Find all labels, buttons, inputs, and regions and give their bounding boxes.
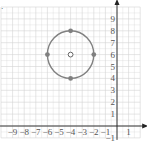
x-axis-arrow-icon [142,124,147,129]
filled-point [68,76,73,81]
grid [1,7,140,138]
filled-point [91,52,96,57]
filled-point [68,28,73,33]
x-tick-label: −4 [66,127,76,137]
y-tick-label: 8 [111,26,116,36]
axes: xy [0,0,147,140]
filled-point [45,52,50,57]
x-tick-label: −3 [77,127,87,137]
y-tick-label: 9 [111,14,116,24]
x-tick-label: 1 [126,127,131,137]
y-tick-label: 2 [111,97,116,107]
y-tick-label: −1 [105,133,115,143]
y-tick-label: 5 [111,62,116,72]
y-axis-arrow-icon [115,0,120,5]
x-tick-label: −9 [8,127,18,137]
x-tick-label: −6 [43,127,53,137]
x-tick-label: −2 [89,127,99,137]
open-center-point [68,52,73,57]
y-tick-label: 7 [111,38,116,48]
x-tick-label: −8 [19,127,29,137]
x-tick-label: −7 [31,127,41,137]
x-tick-label: −5 [54,127,64,137]
y-tick-label: 4 [111,73,116,83]
y-tick-label: 3 [111,85,116,95]
circle-graph: xy −9−8−7−6−5−4−3−2−11−1123456789 [0,0,147,144]
y-tick-label: 1 [111,109,116,119]
y-tick-label: 6 [111,50,116,60]
